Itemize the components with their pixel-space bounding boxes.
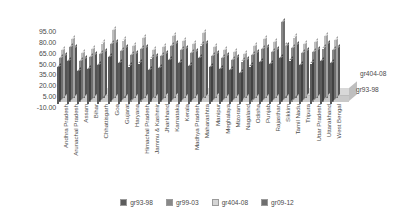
- bar-side: [332, 59, 334, 102]
- bar: [67, 61, 69, 104]
- bar-side: [59, 63, 61, 102]
- bar-cluster: [188, 11, 197, 104]
- x-axis-label: Kerala: [184, 104, 190, 122]
- x-axis-label: Himachal Pradesh: [144, 104, 150, 154]
- bar-cluster: [209, 11, 218, 104]
- bar-side: [81, 57, 83, 100]
- bar: [219, 69, 221, 104]
- bar: [310, 64, 312, 104]
- x-axis-label: Nagaland: [245, 104, 251, 130]
- x-axis-label: Bihar: [93, 104, 99, 118]
- bar-side: [170, 55, 172, 101]
- bar-side: [71, 43, 73, 100]
- bar-side: [251, 62, 253, 101]
- bar: [97, 65, 99, 104]
- bar-side: [79, 67, 81, 102]
- legend-item[interactable]: gr404-08: [212, 199, 248, 206]
- x-axis-label: Punjab: [265, 104, 271, 123]
- series-callout-gr93-98: gr93-98: [356, 86, 379, 93]
- legend-item[interactable]: gr93-98: [120, 199, 153, 206]
- bar-side: [130, 62, 132, 101]
- bar-face: [57, 67, 59, 104]
- legend-swatch: [212, 199, 219, 206]
- bar: [128, 67, 130, 104]
- bar-face: [209, 67, 211, 104]
- bar-side: [61, 53, 63, 99]
- bar-side: [162, 52, 164, 100]
- legend-item[interactable]: gr99-03: [166, 199, 199, 206]
- bar-side: [184, 37, 186, 98]
- bar-side: [336, 35, 338, 97]
- bar-side: [211, 63, 213, 102]
- bar: [178, 63, 180, 104]
- bar-side: [334, 46, 336, 100]
- bar-side: [271, 60, 273, 102]
- x-axis-label: Mizoram: [235, 104, 241, 127]
- x-axis-label: Chhattisgarh: [103, 104, 109, 138]
- legend-item[interactable]: gr09-12: [261, 199, 294, 206]
- bar-side: [69, 57, 71, 102]
- x-axis-label: Uttarakhand: [326, 104, 332, 137]
- bar-side: [265, 35, 267, 98]
- bar-side: [235, 48, 237, 98]
- bar-cluster: [97, 11, 106, 104]
- x-axis-label: Odisha: [255, 104, 261, 123]
- bar-cluster: [108, 11, 117, 104]
- bar-side: [273, 47, 275, 99]
- x-axis-label: Rajasthan: [275, 104, 281, 131]
- bar-side: [221, 65, 223, 102]
- bar: [259, 62, 261, 104]
- bar-side: [132, 50, 134, 99]
- bar-side: [150, 65, 152, 101]
- bar-side: [182, 46, 184, 100]
- bar-cluster: [118, 11, 127, 104]
- bar-cluster: [67, 11, 76, 104]
- bar-face: [330, 63, 332, 104]
- bar-face: [269, 64, 271, 104]
- x-axis-label: Gujarat: [124, 104, 130, 124]
- bar-face: [239, 73, 241, 104]
- bar-side: [283, 18, 285, 100]
- bar: [118, 63, 120, 104]
- bar: [168, 60, 170, 104]
- bar: [209, 67, 211, 104]
- bar-cluster: [57, 11, 66, 104]
- x-axis-label: Goa: [114, 104, 120, 116]
- bar: [77, 71, 79, 104]
- y-axis-tick: 35.00: [39, 71, 56, 78]
- bar-side: [144, 34, 146, 98]
- x-axis-label: Karnataka: [174, 104, 180, 132]
- bar-face: [219, 69, 221, 104]
- bar-face: [259, 62, 261, 104]
- plot-area: [57, 2, 357, 104]
- x-axis-label: Tripura: [305, 104, 311, 123]
- bar-face: [299, 65, 301, 104]
- bar: [57, 67, 59, 104]
- x-axis-label: Jharkhand: [164, 104, 170, 132]
- bar-face: [108, 57, 110, 104]
- bar-face: [279, 58, 281, 104]
- bar: [229, 70, 231, 104]
- x-axis-label: Manipur: [215, 104, 221, 126]
- bar-face: [67, 61, 69, 104]
- bar-face: [188, 66, 190, 104]
- bar-side: [255, 42, 257, 98]
- bar-side: [174, 32, 176, 98]
- bar-cluster: [269, 11, 278, 104]
- bar-side: [243, 57, 245, 100]
- bar: [138, 64, 140, 104]
- legend-label: gr93-98: [130, 199, 153, 206]
- y-axis-tick: 80.00: [39, 39, 56, 46]
- bar-face: [138, 64, 140, 104]
- bar-cluster: [158, 11, 167, 104]
- legend-label: gr404-08: [222, 199, 248, 206]
- bar: [188, 66, 190, 104]
- bar-side: [164, 43, 166, 98]
- x-axis-label: Maharashtra: [204, 104, 210, 138]
- bar-face: [229, 70, 231, 104]
- bar-cluster: [330, 11, 339, 104]
- bar-side: [275, 38, 277, 98]
- bar-face: [118, 63, 120, 104]
- y-axis: 95.0080.0065.0050.0035.0020.005.00-10.00: [8, 28, 56, 104]
- bar-face: [128, 67, 130, 104]
